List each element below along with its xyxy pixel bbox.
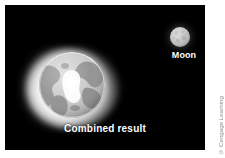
earth-surface-icon [39, 52, 105, 118]
figure-container: Moon Combined result © Cengage Learning [0, 0, 225, 158]
space-background-panel: Moon Combined result [5, 5, 205, 150]
copyright-credit: © Cengage Learning [218, 96, 224, 155]
earth-disc [39, 52, 105, 118]
moon-label: Moon [163, 50, 205, 61]
moon-surface-icon [170, 27, 190, 47]
combined-result-caption: Combined result [5, 123, 205, 134]
moon-group: Moon [163, 22, 205, 70]
moon-disc [170, 27, 190, 47]
earth-globe-group [27, 47, 119, 129]
